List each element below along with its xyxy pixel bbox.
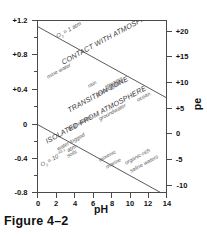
x-tick-label: 4 [73, 199, 77, 208]
x-tick-mark [93, 193, 94, 198]
y-tick-mark [32, 54, 37, 55]
y-tick-label: +0.8 [13, 50, 28, 59]
y2-tick-label: 0 [176, 129, 180, 138]
y-tick-mark [32, 89, 37, 90]
x-tick-label: 14 [163, 199, 171, 208]
y-tick-minor [34, 37, 37, 38]
x-tick-mark [130, 193, 131, 198]
y-tick-minor [34, 106, 37, 107]
y2-tick-mark [167, 108, 172, 109]
y-tick-mark [32, 124, 37, 125]
y2-tick-label: -10 [177, 181, 188, 190]
x-tick-mark [148, 193, 149, 198]
y2-axis-title: pe [191, 98, 203, 110]
y-tick-minor [34, 175, 37, 176]
y-tick-mark [32, 158, 37, 159]
y2-tick-label: +20 [176, 27, 189, 36]
x-axis-title: pH [94, 203, 108, 215]
y2-tick-mark [167, 185, 172, 186]
stability-field-lines [38, 21, 167, 193]
y2-tick-mark [167, 133, 172, 134]
x-tick-label: 2 [54, 199, 58, 208]
x-tick-label: 10 [126, 199, 134, 208]
y-tick-label: -0.8 [15, 188, 28, 197]
x-tick-mark [37, 193, 38, 198]
y2-tick-mark [167, 82, 172, 83]
y-tick-minor [34, 71, 37, 72]
upper-stability-line [38, 27, 167, 99]
y-tick-label: +1.2 [13, 16, 28, 25]
y-tick-label: 0 [23, 120, 27, 129]
y2-tick-label: +10 [176, 78, 189, 87]
figure-container: O2 = 1 atm CONTACT WITH ATMOSPHERE mine … [0, 0, 207, 237]
y2-tick-label: -5 [176, 155, 183, 164]
plot-area: O2 = 1 atm CONTACT WITH ATMOSPHERE mine … [37, 20, 167, 193]
y-tick-label: +0.4 [13, 85, 28, 94]
x-tick-mark [56, 193, 57, 198]
y-tick-minor [34, 141, 37, 142]
x-tick-label: 0 [36, 199, 40, 208]
figure-caption: Figure 4–2 [4, 214, 69, 228]
y-tick-mark [32, 20, 37, 21]
y2-tick-mark [167, 31, 172, 32]
y2-tick-mark [167, 159, 172, 160]
y2-tick-label: +15 [176, 52, 189, 61]
lower-stability-line [38, 125, 167, 193]
y2-tick-mark [167, 56, 172, 57]
x-tick-mark [74, 193, 75, 198]
x-tick-label: 8 [110, 199, 114, 208]
y2-tick-label: +5 [176, 104, 185, 113]
x-tick-mark [111, 193, 112, 198]
y-tick-label: -0.4 [15, 154, 28, 163]
x-tick-label: 12 [144, 199, 152, 208]
x-tick-mark [166, 193, 167, 198]
